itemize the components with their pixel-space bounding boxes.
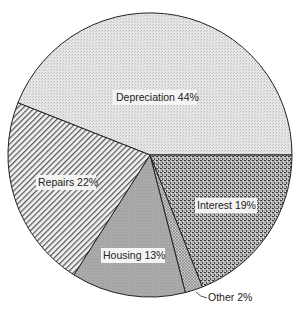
label-repairs: Repairs 22% [38,176,98,188]
pie-chart: Depreciation 44% Repairs 22% Interest 19… [0,0,299,311]
leader-line-other [196,292,207,298]
label-depreciation: Depreciation 44% [116,91,199,103]
label-housing: Housing 13% [103,249,165,261]
label-other: Other 2% [208,291,252,303]
label-interest: Interest 19% [197,199,256,211]
